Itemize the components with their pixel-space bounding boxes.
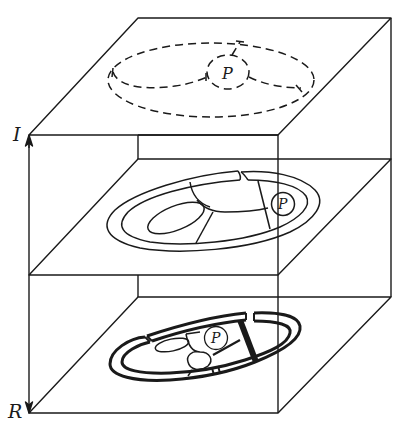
top-outer-ellipse [108,43,314,117]
bottom-thick-bar [240,320,256,362]
top-layer-label: P [221,64,233,83]
middle-layer-figure [107,171,320,251]
axis-label-top: I [12,123,21,145]
bottom-plane [29,297,391,413]
box-frame [29,18,391,413]
layered-box-diagram: I R P P P [0,0,404,435]
top-layer-ticks [112,41,302,92]
axis-label-bottom: R [7,400,22,422]
middle-layer-label: P [277,196,288,212]
top-layer-figure [108,42,314,117]
bottom-layer-figure [110,313,300,381]
diagram-canvas: I R P P P [0,0,404,435]
bottom-layer-label: P [210,330,221,346]
